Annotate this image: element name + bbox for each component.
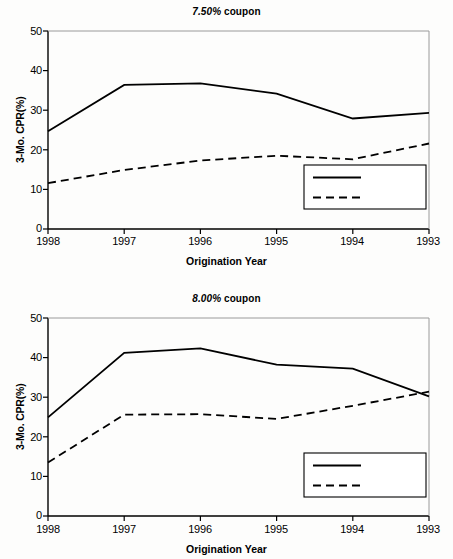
series-line-generics bbox=[48, 83, 429, 131]
chart-panel-750-coupon: 7.50% coupon 3-Mo. CPR(%) 50 40 30 20 10… bbox=[0, 0, 453, 280]
plot-area-800 bbox=[0, 280, 453, 559]
chart-panel-800-coupon: 8.00% coupon 3-Mo. CPR(%) 50 40 30 20 10… bbox=[0, 280, 453, 559]
series-line-65k bbox=[48, 392, 429, 463]
series-line-generics bbox=[48, 348, 429, 417]
figure-page: 7.50% coupon 3-Mo. CPR(%) 50 40 30 20 10… bbox=[0, 0, 453, 559]
legend-box bbox=[304, 453, 426, 497]
plot-area-750 bbox=[0, 0, 453, 280]
legend-box bbox=[304, 165, 426, 209]
